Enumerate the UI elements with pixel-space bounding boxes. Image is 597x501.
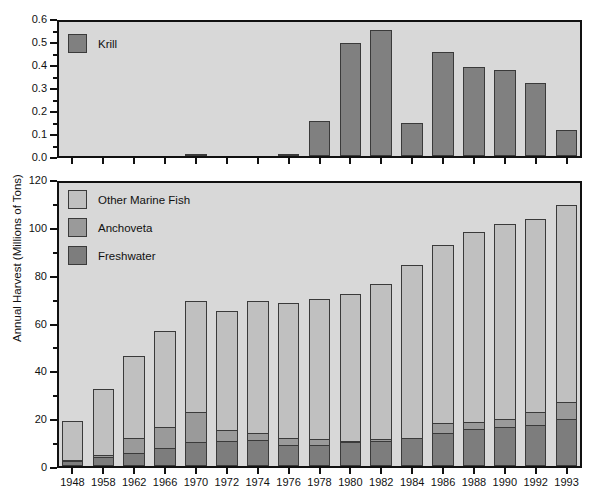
bar-segment-freshwater (401, 438, 423, 466)
x-tick (349, 468, 351, 474)
bar-segment-other-marine-fish (247, 301, 269, 434)
x-tick-label: 1988 (462, 476, 486, 488)
y-tick-minor (53, 100, 57, 102)
bar-segment-krill (494, 70, 516, 156)
bar-krill (309, 121, 331, 156)
bar-segment-krill (401, 123, 423, 157)
bar-segment-freshwater (463, 429, 485, 466)
x-tick (473, 158, 475, 164)
y-tick-label: 20 (35, 413, 47, 425)
x-tick-label: 1993 (554, 476, 578, 488)
bar-segment-freshwater (93, 457, 115, 466)
bar-krill (278, 154, 300, 156)
bar-segment-freshwater (247, 440, 269, 466)
x-tick (535, 158, 537, 164)
bar-segment-other-marine-fish (154, 331, 176, 428)
y-axis-title: Annual Harvest (Millions of Tons) (11, 133, 23, 383)
bar-segment-freshwater (494, 427, 516, 466)
x-tick-label: 1976 (276, 476, 300, 488)
bar-segment-krill (432, 52, 454, 156)
x-tick-label: 1962 (122, 476, 146, 488)
legend-swatch-icon (68, 34, 87, 53)
x-tick-label: 1974 (245, 476, 269, 488)
x-tick-label: 1980 (338, 476, 362, 488)
bar-stack (62, 421, 84, 466)
y-tick-minor (53, 252, 57, 254)
y-tick-major (50, 134, 57, 136)
legend-swatch-icon (68, 218, 87, 237)
legend-swatch-icon (68, 190, 87, 209)
x-tick (195, 468, 197, 474)
bar-krill (185, 154, 207, 156)
x-tick-label: 1972 (215, 476, 239, 488)
bar-krill (556, 130, 578, 156)
bar-krill (370, 30, 392, 156)
y-tick-minor (53, 146, 57, 148)
x-tick-label: 1990 (493, 476, 517, 488)
legend-swatch-icon (68, 246, 87, 265)
x-tick (288, 468, 290, 474)
legend-label: Krill (98, 38, 117, 50)
x-tick (71, 158, 73, 164)
x-tick (473, 468, 475, 474)
krill-legend: Krill (68, 34, 117, 62)
y-tick-major (50, 419, 57, 421)
x-tick (102, 468, 104, 474)
y-tick-label: 40 (35, 365, 47, 377)
x-tick (442, 158, 444, 164)
bar-segment-krill (185, 154, 207, 156)
y-tick-label: 0.1 (32, 128, 47, 140)
legend-label: Other Marine Fish (98, 194, 190, 206)
bar-segment-freshwater (278, 445, 300, 466)
x-tick (102, 158, 104, 164)
bar-segment-anchoveta (123, 438, 145, 455)
x-tick (257, 158, 259, 164)
bar-segment-krill (525, 83, 547, 156)
bar-stack (154, 331, 176, 466)
bar-segment-freshwater (185, 442, 207, 466)
bar-segment-other-marine-fish (123, 356, 145, 439)
x-tick (504, 468, 506, 474)
y-tick-minor (53, 123, 57, 125)
chart-figure: Annual Harvest (Millions of Tons) 0.00.1… (0, 0, 597, 501)
x-tick (566, 468, 568, 474)
y-tick-major (50, 42, 57, 44)
x-tick-label: 1970 (184, 476, 208, 488)
bar-segment-anchoveta (185, 412, 207, 444)
x-tick-label: 1978 (307, 476, 331, 488)
y-tick-label: 80 (35, 270, 47, 282)
x-tick (164, 468, 166, 474)
bar-stack (370, 284, 392, 466)
x-tick (226, 158, 228, 164)
x-tick (133, 158, 135, 164)
y-tick-major (50, 111, 57, 113)
x-tick-label: 1984 (400, 476, 424, 488)
bar-segment-krill (556, 130, 578, 156)
y-tick-label: 0.4 (32, 59, 47, 71)
y-tick-minor (53, 395, 57, 397)
bar-stack (93, 389, 115, 466)
harvest-legend-item: Other Marine Fish (68, 190, 190, 209)
bar-segment-other-marine-fish (432, 245, 454, 424)
x-tick (380, 158, 382, 164)
legend-label: Anchoveta (98, 222, 152, 234)
bar-stack (556, 205, 578, 466)
bar-segment-freshwater (432, 433, 454, 466)
x-tick-label: 1982 (369, 476, 393, 488)
x-tick (226, 468, 228, 474)
bar-stack (432, 245, 454, 466)
bar-segment-other-marine-fish (309, 299, 331, 439)
bar-segment-freshwater (370, 441, 392, 466)
y-tick-label: 0.5 (32, 36, 47, 48)
harvest-legend: Other Marine FishAnchovetaFreshwater (68, 190, 190, 274)
bar-segment-other-marine-fish (525, 219, 547, 412)
bar-krill (401, 123, 423, 157)
bar-segment-other-marine-fish (93, 389, 115, 456)
bar-segment-other-marine-fish (216, 311, 238, 431)
y-tick-major (50, 467, 57, 469)
y-tick-label: 0.0 (32, 151, 47, 163)
x-tick (195, 158, 197, 164)
bar-segment-other-marine-fish (556, 205, 578, 403)
x-tick (504, 158, 506, 164)
bar-stack (123, 356, 145, 466)
